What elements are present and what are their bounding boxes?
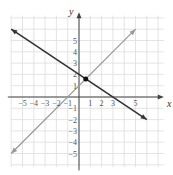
svg-text:1: 1 [88,99,92,108]
coordinate-graph: xy−5−4−3−2−1123554321−1−2−3−4−5 [0,0,173,175]
svg-text:−3: −3 [41,99,50,108]
svg-text:−1: −1 [68,104,77,113]
svg-text:2: 2 [73,70,77,79]
svg-text:−5: −5 [68,150,77,159]
svg-text:−4: −4 [30,99,39,108]
svg-text:−2: −2 [68,116,77,125]
grid [11,16,164,167]
svg-text:1: 1 [73,82,77,91]
svg-text:5: 5 [73,37,77,46]
svg-text:3: 3 [111,99,115,108]
svg-text:5: 5 [134,99,138,108]
svg-text:−3: −3 [68,127,77,136]
intersection-point [83,76,88,81]
axes [8,12,164,170]
svg-text:4: 4 [73,48,77,57]
y-axis-label: y [68,6,74,17]
svg-text:2: 2 [100,99,104,108]
svg-text:−5: −5 [18,99,27,108]
x-axis-label: x [166,98,172,109]
svg-text:3: 3 [73,59,77,68]
svg-text:−4: −4 [68,138,77,147]
svg-text:−2: −2 [52,99,61,108]
